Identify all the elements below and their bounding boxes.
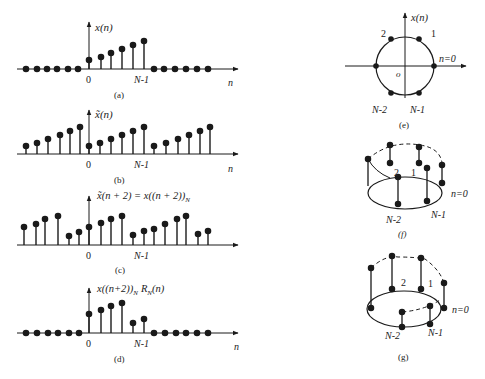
label-N1: N-1 <box>430 209 446 220</box>
caption: (g) <box>398 352 409 362</box>
panel-b: x̃(n) 0 N-1 n (b) <box>17 108 238 185</box>
caption: (f) <box>398 229 407 239</box>
envelope-back <box>368 159 390 178</box>
tick-end: N-1 <box>133 250 149 261</box>
label-1: 1 <box>431 28 436 39</box>
label-1: 1 <box>411 167 416 178</box>
xlabel: n <box>234 341 239 352</box>
xlabel: n <box>228 77 233 88</box>
tick-zero: 0 <box>86 250 91 261</box>
ylabel: x((n+2))NRN(n) <box>96 283 165 297</box>
panel-d: x((n+2))NRN(n) 0 N-1 n (d) <box>17 283 239 364</box>
origin-label: o <box>396 69 401 79</box>
caption: (d) <box>114 354 125 364</box>
tick-zero: 0 <box>86 338 91 349</box>
stems <box>23 124 212 154</box>
label-n0: n=0 <box>452 304 469 315</box>
label-n0: n=0 <box>451 188 468 199</box>
xlabel: n <box>228 163 233 174</box>
ylabel: x̃(n + 2) = x((n + 2))N <box>96 190 190 204</box>
tick-zero: 0 <box>86 74 91 85</box>
tick-end: N-1 <box>133 74 149 85</box>
panel-c: x̃(n + 2) = x((n + 2))N 0 N-1 (c) <box>17 190 238 275</box>
panel-a: x(n) 0 N-1 n (a) <box>17 21 238 100</box>
stems <box>21 213 210 245</box>
label-N2: N-2 <box>385 214 401 225</box>
stems <box>23 300 210 335</box>
label-n0: n=0 <box>439 53 456 64</box>
circular-shift-diagram: x(n) 0 N-1 n (a) x̃(n) <box>0 0 485 379</box>
label-N2: N-2 <box>384 330 400 341</box>
label-2: 2 <box>401 277 406 288</box>
caption: (b) <box>114 175 125 185</box>
panel-e: x(n) 1 2 n=0 o N-2 N-1 (e) <box>345 12 466 130</box>
label-2: 2 <box>394 167 399 178</box>
tick-end: N-1 <box>133 338 149 349</box>
envelope-dashed-top <box>371 257 444 283</box>
caption: (c) <box>115 265 125 275</box>
tick-zero: 0 <box>86 159 91 170</box>
tick-end: N-1 <box>133 159 149 170</box>
ylabel: x(n) <box>410 12 428 24</box>
label-N2: N-2 <box>371 104 387 115</box>
panel-g: 2 1 n=0 N-2 N-1 (g) <box>367 253 469 362</box>
envelope-dashed-bottom <box>402 300 440 312</box>
ylabel: x̃(n) <box>94 108 113 121</box>
caption: (e) <box>399 120 409 130</box>
label-2: 2 <box>381 28 386 39</box>
label-1: 1 <box>428 278 433 289</box>
panel-f: 2 1 n=0 N-2 N-1 (f) <box>365 142 467 239</box>
stems <box>365 142 444 206</box>
caption: (a) <box>114 90 124 100</box>
label-N1: N-1 <box>409 104 425 115</box>
base-ellipse <box>368 177 442 209</box>
envelope-dashed <box>368 144 442 163</box>
label-N1: N-1 <box>427 327 443 338</box>
ylabel: x(n) <box>94 21 113 34</box>
stems <box>23 38 210 71</box>
